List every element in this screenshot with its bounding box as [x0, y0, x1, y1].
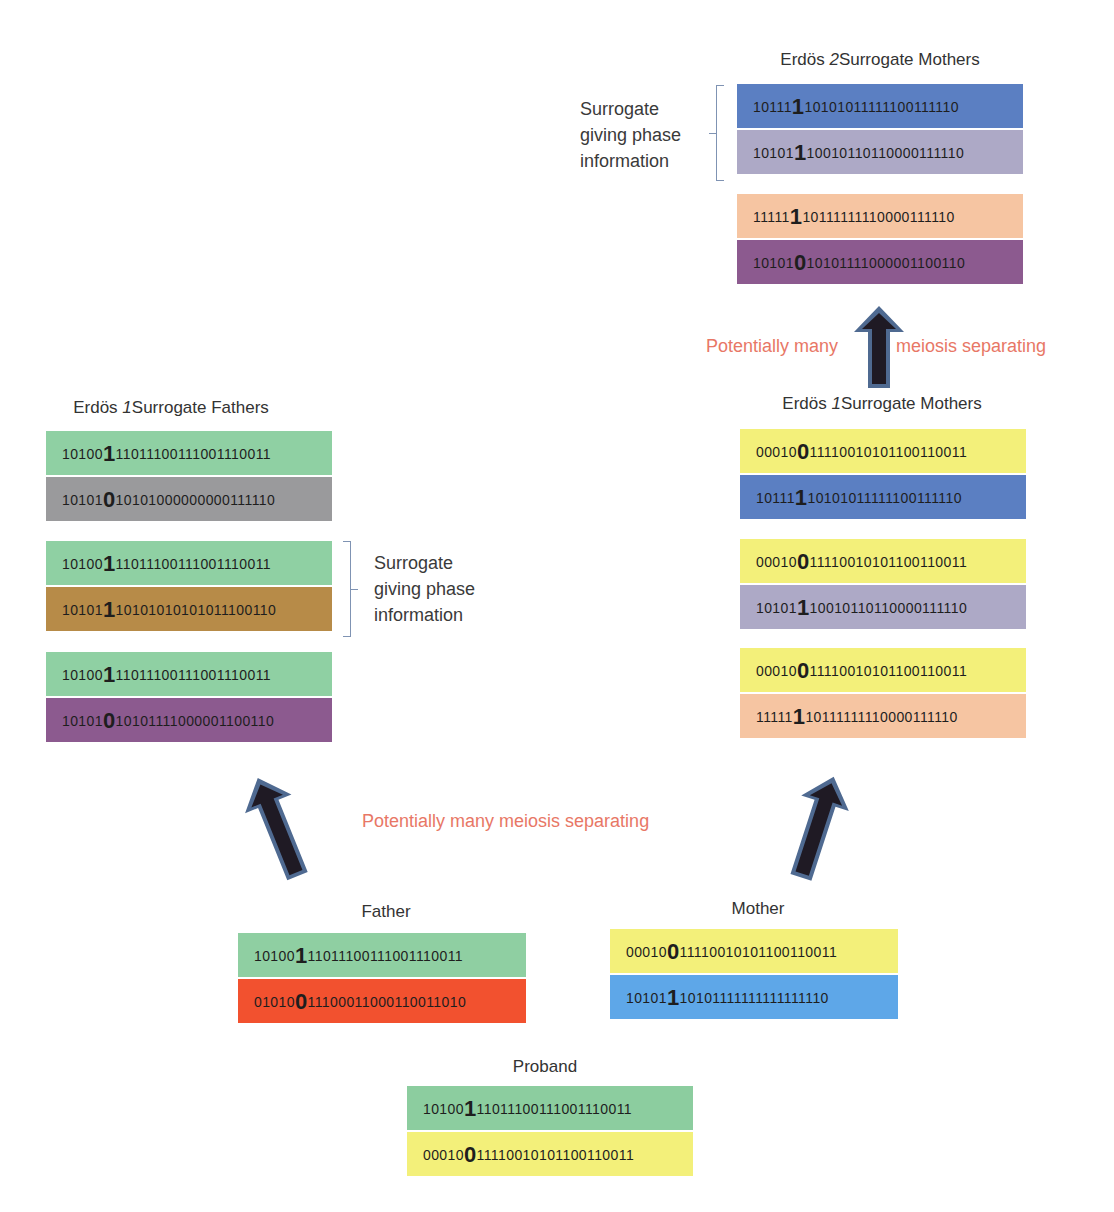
- sequence-segment: 11110010101100110011: [810, 444, 968, 460]
- sequence-segment: 11111: [753, 209, 790, 225]
- erdos1-phase-bracket: [343, 541, 351, 637]
- sequence-segment: 10101: [753, 255, 794, 271]
- chromosome-row: 10101010101111000001100110: [737, 240, 1023, 286]
- sequence-segment: 10101011111100111110: [805, 99, 959, 115]
- sequence-segment: 10101111000001100110: [116, 713, 275, 729]
- erdos1-mothers-pair-2: 00010011110010101100110011 1010111001011…: [740, 539, 1026, 631]
- highlighted-allele: 1: [464, 1096, 477, 1121]
- mother-title: Mother: [732, 899, 785, 919]
- mother-chromosomes: 00010011110010101100110011 1010111010111…: [610, 929, 898, 1021]
- sequence-segment: 10101: [626, 990, 667, 1006]
- erdos2-mothers-title: Erdös 2Surrogate Mothers: [780, 50, 979, 70]
- highlighted-allele: 1: [792, 94, 805, 119]
- sequence-segment: 10101000000000111110: [116, 492, 276, 508]
- proband-chromosomes: 10100111011100111001110011 0001001111001…: [407, 1086, 693, 1178]
- chromosome-row: 10101010101111000001100110: [46, 698, 332, 744]
- sequence-segment: 10101: [756, 600, 797, 616]
- highlighted-allele: 1: [103, 597, 116, 622]
- highlighted-allele: 0: [794, 250, 807, 275]
- proband-title: Proband: [513, 1057, 577, 1077]
- sequence-segment: 10111: [753, 99, 792, 115]
- sequence-segment: 10111: [756, 490, 795, 506]
- sequence-segment: 10100: [62, 667, 103, 683]
- highlighted-allele: 1: [103, 551, 116, 576]
- highlighted-allele: 0: [464, 1142, 477, 1167]
- father-title: Father: [361, 902, 410, 922]
- highlighted-allele: 1: [103, 662, 116, 687]
- erdos2-pair-2: 11111110111111110000111110 1010101010111…: [737, 194, 1023, 286]
- highlighted-allele: 1: [790, 204, 803, 229]
- highlighted-allele: 1: [667, 985, 680, 1010]
- chromosome-row: 10100111011100111001110011: [407, 1086, 693, 1132]
- sequence-segment: 11110010101100110011: [810, 554, 968, 570]
- chromosome-row: 11111110111111110000111110: [737, 194, 1023, 240]
- highlighted-allele: 0: [667, 939, 680, 964]
- sequence-segment: 11011100111001110011: [116, 667, 271, 683]
- chromosome-row: 00010011110010101100110011: [407, 1132, 693, 1178]
- sequence-segment: 10101011111100111110: [808, 490, 962, 506]
- erdos2-phase-bracket: [716, 85, 724, 181]
- highlighted-allele: 0: [103, 708, 116, 733]
- highlighted-allele: 1: [793, 704, 806, 729]
- sequence-segment: 10100: [62, 556, 103, 572]
- erdos1-mothers-title: Erdös 1Surrogate Mothers: [782, 394, 981, 414]
- chromosome-row: 00010011110010101100110011: [610, 929, 898, 975]
- sequence-segment: 00010: [423, 1147, 464, 1163]
- sequence-segment: 10100: [423, 1101, 464, 1117]
- chromosome-row: 10111110101011111100111110: [740, 475, 1026, 521]
- chromosome-row: 10100111011100111001110011: [46, 652, 332, 698]
- erdos1-mothers-pair-1: 00010011110010101100110011 1011111010101…: [740, 429, 1026, 521]
- erdos1-fathers-pair-1: 10100111011100111001110011 1010101010100…: [46, 431, 332, 523]
- erdos2-phase-note: Surrogate giving phase information: [580, 96, 710, 174]
- meiosis-label-lower: Potentially many meiosis separating: [362, 811, 649, 832]
- highlighted-allele: 0: [797, 549, 810, 574]
- chromosome-row: 10101110010110110000111110: [740, 585, 1026, 631]
- sequence-segment: 11100011000110011010: [308, 994, 467, 1010]
- sequence-segment: 10010110110000111110: [807, 145, 965, 161]
- sequence-segment: 10111111110000111110: [802, 209, 954, 225]
- highlighted-allele: 0: [797, 658, 810, 683]
- chromosome-row: 10111110101011111100111110: [737, 84, 1023, 130]
- sequence-segment: 10101: [62, 492, 103, 508]
- erdos1-fathers-pair-2: 10100111011100111001110011 1010111010101…: [46, 541, 332, 633]
- chromosome-row: 00010011110010101100110011: [740, 648, 1026, 694]
- up-right-arrow-icon: [782, 772, 852, 884]
- chromosome-row: 10100111011100111001110011: [46, 431, 332, 477]
- sequence-segment: 11111: [756, 709, 793, 725]
- sequence-segment: 11011100111001110011: [308, 948, 463, 964]
- up-left-arrow-icon: [243, 772, 313, 884]
- chromosome-row: 10101110010110110000111110: [737, 130, 1023, 176]
- chromosome-row: 00010011110010101100110011: [740, 539, 1026, 585]
- chromosome-row: 10100111011100111001110011: [46, 541, 332, 587]
- highlighted-allele: 1: [797, 595, 810, 620]
- erdos1-mothers-pair-3: 00010011110010101100110011 1111111011111…: [740, 648, 1026, 740]
- meiosis-label-upper-right: meiosis separating: [896, 336, 1046, 357]
- erdos1-phase-note: Surrogate giving phase information: [374, 550, 504, 628]
- sequence-segment: 10101: [62, 713, 103, 729]
- chromosome-row: 10101110101010101011100110: [46, 587, 332, 633]
- sequence-segment: 10100: [62, 446, 103, 462]
- meiosis-label-upper-left: Potentially many: [706, 336, 838, 357]
- sequence-segment: 00010: [756, 554, 797, 570]
- chromosome-row: 01010011100011000110011010: [238, 979, 526, 1025]
- sequence-segment: 00010: [626, 944, 667, 960]
- chromosome-row: 00010011110010101100110011: [740, 429, 1026, 475]
- sequence-segment: 00010: [756, 444, 797, 460]
- sequence-segment: 00010: [756, 663, 797, 679]
- sequence-segment: 11110010101100110011: [680, 944, 838, 960]
- highlighted-allele: 0: [103, 487, 116, 512]
- highlighted-allele: 0: [797, 439, 810, 464]
- father-chromosomes: 10100111011100111001110011 0101001110001…: [238, 933, 526, 1025]
- sequence-segment: 11011100111001110011: [477, 1101, 632, 1117]
- sequence-segment: 01010: [254, 994, 295, 1010]
- sequence-segment: 10101010101011100110: [116, 602, 277, 618]
- sequence-segment: 10100: [254, 948, 295, 964]
- sequence-segment: 10101: [62, 602, 103, 618]
- erdos1-fathers-title: Erdös 1Surrogate Fathers: [73, 398, 269, 418]
- sequence-segment: 10111111110000111110: [805, 709, 957, 725]
- highlighted-allele: 1: [103, 441, 116, 466]
- chromosome-row: 10101010101000000000111110: [46, 477, 332, 523]
- sequence-segment: 11011100111001110011: [116, 446, 271, 462]
- highlighted-allele: 1: [295, 943, 308, 968]
- sequence-segment: 10101111111111111110: [680, 990, 829, 1006]
